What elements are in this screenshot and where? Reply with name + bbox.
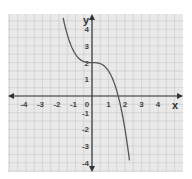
y-tick-label: -2	[82, 125, 90, 134]
x-axis-label: x	[172, 99, 179, 111]
cubic-function-graph: -4-3-2-1012344321-1-2-3-4xy	[0, 0, 192, 179]
x-tick-label: 2	[123, 100, 128, 109]
x-tick-label: 1	[106, 100, 111, 109]
x-tick-label: 4	[156, 100, 161, 109]
y-tick-label: 3	[85, 42, 90, 51]
x-tick-label: -2	[53, 100, 61, 109]
x-tick-label: 0	[85, 100, 90, 109]
y-tick-label: -1	[82, 109, 90, 118]
y-axis-label: y	[83, 14, 90, 26]
y-tick-label: -3	[82, 142, 90, 151]
x-tick-label: 3	[139, 100, 144, 109]
y-tick-label: 4	[85, 25, 90, 34]
x-tick-label: -3	[37, 100, 45, 109]
y-tick-label: 1	[85, 75, 90, 84]
y-tick-label: -4	[82, 159, 90, 168]
x-tick-label: -4	[20, 100, 28, 109]
x-tick-label: -1	[70, 100, 78, 109]
